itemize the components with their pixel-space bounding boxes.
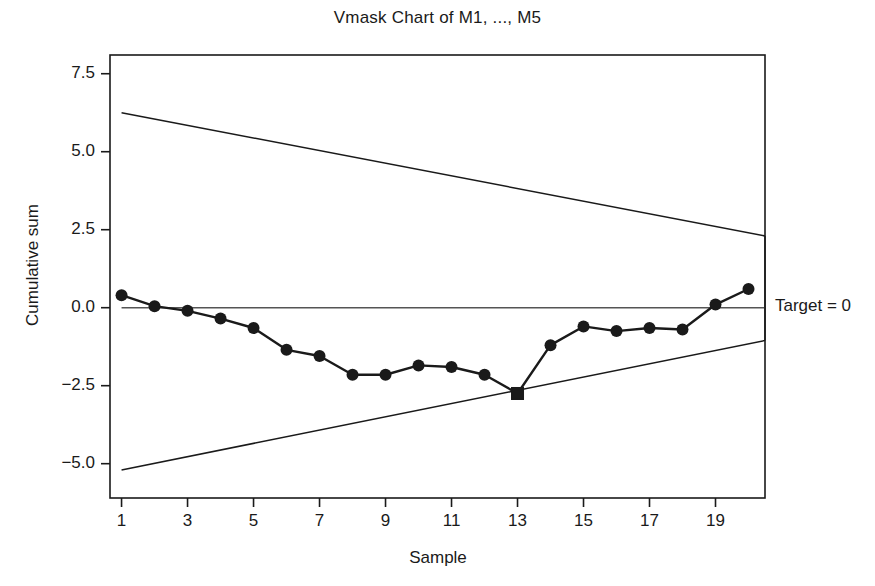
plot-area	[0, 0, 875, 586]
data-point-18[interactable]	[677, 324, 689, 336]
data-point-9[interactable]	[380, 369, 392, 381]
data-point-5[interactable]	[248, 322, 260, 334]
data-point-11[interactable]	[446, 361, 458, 373]
x-tick-label-5: 11	[432, 511, 472, 531]
x-tick-label-4: 9	[366, 511, 406, 531]
y-tick-label-5: −5.0	[25, 453, 95, 473]
x-tick-label-1: 3	[168, 511, 208, 531]
data-point-16[interactable]	[611, 325, 623, 337]
x-tick-label-0: 1	[102, 511, 142, 531]
y-tick-label-3: 0.0	[25, 297, 95, 317]
data-point-4[interactable]	[215, 313, 227, 325]
y-tick-label-2: 2.5	[25, 219, 95, 239]
data-point-10[interactable]	[413, 359, 425, 371]
x-tick-label-3: 7	[300, 511, 340, 531]
x-tick-label-6: 13	[498, 511, 538, 531]
data-point-15[interactable]	[578, 320, 590, 332]
cusum-line	[122, 289, 749, 394]
data-point-20[interactable]	[743, 283, 755, 295]
y-tick-label-0: 7.5	[25, 63, 95, 83]
y-tick-label-1: 5.0	[25, 141, 95, 161]
data-point-12[interactable]	[479, 369, 491, 381]
data-point-6[interactable]	[281, 344, 293, 356]
data-point-1[interactable]	[116, 289, 128, 301]
data-point-3[interactable]	[182, 305, 194, 317]
plot-frame	[110, 55, 765, 498]
vmask-cusum-chart: Vmask Chart of M1, ..., M5 Cumulative su…	[0, 0, 875, 586]
data-point-8[interactable]	[347, 369, 359, 381]
vmask-upper-arm	[122, 113, 765, 236]
x-tick-label-7: 15	[564, 511, 604, 531]
data-point-ooc-13[interactable]	[512, 387, 524, 399]
vmask-lower-arm	[122, 340, 765, 469]
data-point-19[interactable]	[710, 299, 722, 311]
y-tick-label-4: −2.5	[25, 375, 95, 395]
data-point-7[interactable]	[314, 350, 326, 362]
x-tick-label-9: 19	[696, 511, 736, 531]
x-tick-label-2: 5	[234, 511, 274, 531]
x-tick-label-8: 17	[630, 511, 670, 531]
data-point-2[interactable]	[149, 300, 161, 312]
data-point-17[interactable]	[644, 322, 656, 334]
data-point-14[interactable]	[545, 339, 557, 351]
